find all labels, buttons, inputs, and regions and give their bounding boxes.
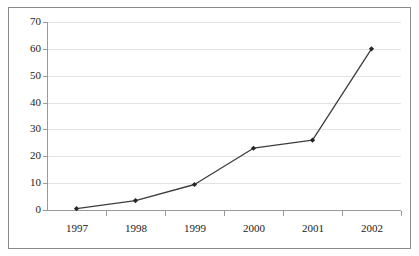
series-markers (74, 46, 374, 211)
data-series-line (0, 0, 419, 256)
data-point-marker (133, 198, 138, 203)
series-polyline (77, 49, 372, 209)
chart-figure: 010203040506070 199719981999200020012002 (0, 0, 419, 256)
data-point-marker (74, 206, 79, 211)
